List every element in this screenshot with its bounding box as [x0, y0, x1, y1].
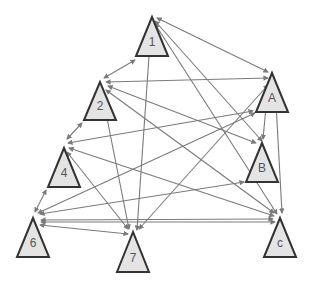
node-label: B [258, 161, 266, 175]
node-label: c [277, 236, 283, 250]
node-label: 6 [30, 236, 37, 250]
edge-1-B [155, 21, 262, 141]
edge-2-A [106, 78, 268, 82]
edge-4-6 [35, 190, 46, 212]
node-layer: 12A4B67c [17, 17, 296, 272]
node-label: 1 [149, 35, 156, 49]
node-label: A [268, 91, 276, 105]
edge-4-7 [67, 152, 128, 229]
node-label: 2 [97, 99, 104, 113]
edge-6-c [41, 219, 273, 220]
edge-1-2 [104, 60, 135, 78]
edge-2-4 [67, 123, 82, 139]
node-6[interactable]: 6 [17, 218, 49, 257]
node-label: 7 [130, 251, 137, 265]
node-label: 4 [61, 166, 68, 180]
node-c[interactable]: c [264, 218, 296, 257]
node-7[interactable]: 7 [117, 232, 149, 272]
edge-2-c [106, 90, 274, 213]
node-B[interactable]: B [246, 143, 278, 182]
edge-1-c [155, 24, 277, 214]
graph-diagram: 12A4B67c [0, 0, 316, 287]
node-4[interactable]: 4 [48, 148, 80, 187]
edge-1-A [157, 18, 268, 72]
edge-6-7 [40, 225, 128, 234]
